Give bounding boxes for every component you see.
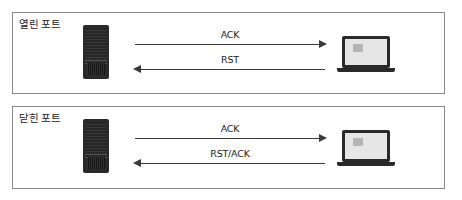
closed-port-panel: 닫힌 포트 ACK RST/ACK [12,106,445,189]
arrow-label-ack: ACK [190,123,270,134]
panel-title: 닫힌 포트 [19,110,61,125]
arrow-label-rst-ack: RST/ACK [190,148,270,159]
arrow-right-icon [135,138,325,139]
arrow-left-icon [135,163,325,164]
panel-title: 열린 포트 [19,16,61,31]
arrow-right-icon [135,44,325,45]
server-icon [83,119,109,173]
laptop-icon [338,130,398,172]
arrow-label-ack: ACK [190,29,270,40]
laptop-icon [338,36,398,78]
server-icon [83,25,109,79]
open-port-panel: 열린 포트 ACK RST [12,12,445,94]
arrow-label-rst: RST [190,54,270,65]
arrow-left-icon [135,69,325,70]
